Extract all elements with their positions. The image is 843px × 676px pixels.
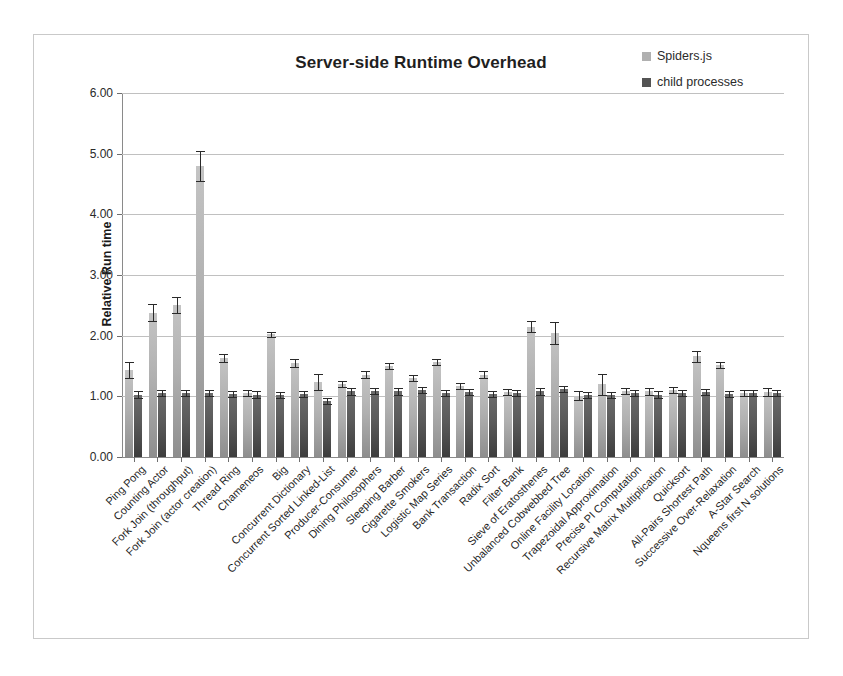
error-bar-spiders-cap xyxy=(196,181,205,182)
error-bar-spiders-cap xyxy=(290,359,299,360)
bar-spiders xyxy=(314,382,322,457)
error-bar-child-processes-cap xyxy=(749,396,758,397)
error-bar-spiders-cap xyxy=(763,396,772,397)
bar-child-processes xyxy=(134,395,142,457)
bar-spiders xyxy=(764,392,772,457)
bar-series-container xyxy=(122,93,784,457)
error-bar-spiders-cap xyxy=(432,365,441,366)
error-bar-spiders xyxy=(768,388,769,395)
error-bar-spiders-cap xyxy=(527,332,536,333)
bar-child-processes xyxy=(205,393,213,457)
error-bar-child-processes-cap xyxy=(607,392,616,393)
error-bar-spiders-cap xyxy=(314,390,323,391)
error-bar-child-processes-cap xyxy=(276,398,285,399)
error-bar-spiders xyxy=(602,374,603,395)
error-bar-child-processes-cap xyxy=(441,390,450,391)
bar-child-processes xyxy=(442,393,450,457)
error-bar-spiders xyxy=(177,297,178,313)
error-bar-child-processes-cap xyxy=(630,390,639,391)
error-bar-spiders-cap xyxy=(645,388,654,389)
error-bar-spiders-cap xyxy=(621,394,630,395)
error-bar-child-processes-cap xyxy=(536,395,545,396)
bar-child-processes xyxy=(607,395,615,457)
y-tick-label: 2.00 xyxy=(90,329,113,343)
error-bar-spiders-cap xyxy=(456,389,465,390)
error-bar-spiders-cap xyxy=(669,387,678,388)
bar-group xyxy=(217,93,241,457)
bar-spiders xyxy=(291,363,299,457)
error-bar-child-processes-cap xyxy=(252,391,261,392)
error-bar-child-processes-cap xyxy=(370,394,379,395)
error-bar-child-processes-cap xyxy=(772,396,781,397)
error-bar-child-processes-cap xyxy=(205,396,214,397)
bar-group xyxy=(429,93,453,457)
error-bar-spiders-cap xyxy=(669,393,678,394)
bar-child-processes xyxy=(418,390,426,457)
error-bar-child-processes-cap xyxy=(701,395,710,396)
bar-spiders xyxy=(385,366,393,457)
bar-spiders xyxy=(480,375,488,458)
error-bar-spiders-cap xyxy=(479,378,488,379)
bar-group xyxy=(619,93,643,457)
bar-child-processes xyxy=(253,395,261,457)
bar-spiders xyxy=(716,365,724,457)
error-bar-spiders-cap xyxy=(503,389,512,390)
bar-spiders xyxy=(740,393,748,457)
bar-spiders xyxy=(220,358,228,457)
error-bar-spiders-cap xyxy=(740,396,749,397)
error-bar-spiders-cap xyxy=(716,362,725,363)
error-bar-spiders-cap xyxy=(550,322,559,323)
error-bar-spiders-cap xyxy=(527,321,536,322)
bar-group xyxy=(193,93,217,457)
error-bar-child-processes-cap xyxy=(536,388,545,389)
error-bar-spiders-cap xyxy=(219,354,228,355)
error-bar-child-processes-cap xyxy=(347,395,356,396)
error-bar-spiders xyxy=(318,374,319,390)
error-bar-spiders-cap xyxy=(385,369,394,370)
error-bar-spiders-cap xyxy=(125,362,134,363)
y-tick-label: 3.00 xyxy=(90,268,113,282)
bar-group xyxy=(689,93,713,457)
bar-child-processes xyxy=(229,394,237,457)
error-bar-child-processes-cap xyxy=(370,388,379,389)
error-bar-child-processes-cap xyxy=(512,390,521,391)
error-bar-child-processes-cap xyxy=(181,390,190,391)
bar-child-processes xyxy=(678,393,686,457)
bar-group xyxy=(358,93,382,457)
bar-child-processes xyxy=(702,392,710,457)
error-bar-child-processes-cap xyxy=(323,398,332,399)
error-bar-child-processes-cap xyxy=(772,390,781,391)
bar-group xyxy=(335,93,359,457)
bar-child-processes xyxy=(749,393,757,457)
error-bar-spiders xyxy=(555,322,556,344)
y-tick-label: 6.00 xyxy=(90,86,113,100)
error-bar-child-processes-cap xyxy=(228,397,237,398)
bar-group xyxy=(311,93,335,457)
bar-spiders xyxy=(645,391,653,457)
error-bar-child-processes-cap xyxy=(418,387,427,388)
error-bar-spiders-cap xyxy=(598,374,607,375)
bar-child-processes xyxy=(371,391,379,457)
bar-group xyxy=(713,93,737,457)
error-bar-spiders-cap xyxy=(314,374,323,375)
bar-child-processes xyxy=(725,394,733,457)
error-bar-spiders-cap xyxy=(148,304,157,305)
bar-child-processes xyxy=(182,393,190,457)
error-bar-spiders-cap xyxy=(125,378,134,379)
legend-item-spiders: Spiders.js xyxy=(642,49,792,63)
error-bar-child-processes-cap xyxy=(678,390,687,391)
error-bar-child-processes-cap xyxy=(299,397,308,398)
error-bar-child-processes-cap xyxy=(299,391,308,392)
error-bar-child-processes-cap xyxy=(512,396,521,397)
y-tick-label: 1.00 xyxy=(90,389,113,403)
bar-group xyxy=(453,93,477,457)
bar-child-processes xyxy=(489,394,497,457)
error-bar-child-processes-cap xyxy=(630,396,639,397)
error-bar-spiders-cap xyxy=(290,367,299,368)
bar-spiders xyxy=(196,166,204,457)
error-bar-child-processes-cap xyxy=(654,391,663,392)
error-bar-spiders-cap xyxy=(692,362,701,363)
error-bar-child-processes-cap xyxy=(418,393,427,394)
bar-group xyxy=(737,93,761,457)
error-bar-spiders-cap xyxy=(716,368,725,369)
